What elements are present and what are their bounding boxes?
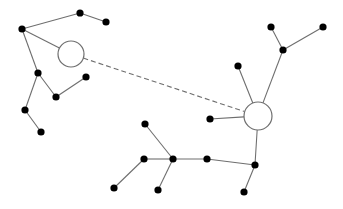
node-dot-b8	[203, 155, 210, 162]
edge-b9-b13	[158, 159, 173, 190]
node-dot-b2	[319, 23, 326, 30]
edge-b3-hubB	[263, 50, 283, 103]
hub-circle-hubA	[58, 41, 84, 67]
node-dot-b12	[110, 184, 117, 191]
node-dot-a8	[37, 128, 44, 135]
edge-a4-a5	[38, 73, 56, 97]
node-dot-b5	[206, 115, 213, 122]
edge-b6-b7	[244, 165, 255, 192]
node-dot-a3	[102, 18, 109, 25]
edge-hubB-b6	[255, 130, 257, 165]
edge-a2-a3	[80, 13, 106, 22]
node-dot-b6	[251, 161, 258, 168]
node-dot-b4	[234, 62, 241, 69]
node-dot-b9	[169, 155, 176, 162]
edge-b1-b3	[271, 27, 283, 50]
node-dot-a1	[18, 25, 25, 32]
node-dot-b10	[141, 120, 148, 127]
node-dot-a5	[52, 93, 59, 100]
edge-b9-b10	[145, 124, 173, 159]
edge-b2-b3	[283, 27, 323, 50]
node-dot-b7	[240, 188, 247, 195]
edge-a5-a6	[56, 77, 86, 97]
node-dot-a2	[76, 9, 83, 16]
edge-b4-hubB	[238, 66, 253, 103]
edge-a7-a8	[25, 110, 41, 132]
edge-b6-b8	[207, 159, 255, 165]
edge-b5-hubB	[210, 117, 244, 119]
edge-a1-a2	[22, 13, 80, 29]
nodes-layer	[18, 9, 326, 195]
edges-layer	[22, 13, 323, 192]
edge-b11-b12	[114, 159, 144, 188]
network-diagram	[0, 0, 343, 209]
node-dot-a4	[34, 69, 41, 76]
dashed-link-edge	[83, 58, 244, 112]
edge-a4-a7	[25, 73, 38, 110]
hub-circle-hubB	[244, 102, 272, 130]
node-dot-b3	[279, 46, 286, 53]
node-dot-a7	[21, 106, 28, 113]
node-dot-b11	[140, 155, 147, 162]
node-dot-a6	[82, 73, 89, 80]
node-dot-b1	[267, 23, 274, 30]
node-dot-b13	[154, 186, 161, 193]
